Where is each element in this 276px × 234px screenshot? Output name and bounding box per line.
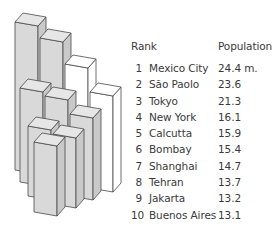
rank-number: 2 (131, 76, 142, 92)
rank-number: 9 (131, 190, 142, 206)
rank-number: 8 (131, 174, 142, 190)
header-rank: Rank (131, 38, 218, 60)
city-name: Jakarta (149, 190, 218, 206)
table-row: 8 Tehran 13.7 (131, 174, 276, 190)
population-value: 24.4 m. (218, 60, 258, 76)
rank-number: 10 (131, 207, 142, 223)
rank-number: 1 (131, 60, 142, 76)
table-row: 4 New York 16.1 (131, 109, 276, 125)
table-row: 9 Jakarta 13.2 (131, 190, 276, 206)
rank-number: 4 (131, 109, 142, 125)
population-value: 13.7 (218, 174, 241, 190)
table-row: 10 Buenos Aires 13.1 (131, 207, 276, 223)
table-row: 1 Mexico City 24.4 m. (131, 60, 276, 76)
population-value: 16.1 (218, 109, 241, 125)
header-population: Population (218, 38, 272, 60)
population-table: Rank Population 1 Mexico City 24.4 m. 2 … (131, 38, 276, 223)
population-value: 13.1 (218, 207, 241, 223)
population-value: 15.9 (218, 125, 241, 141)
city-name: Bombay (149, 141, 218, 157)
population-value: 14.7 (218, 158, 241, 174)
population-value: 15.4 (218, 141, 241, 157)
table-header: Rank Population (131, 38, 276, 60)
table-row: 2 São Paolo 23.6 (131, 76, 276, 92)
table-row: 6 Bombay 15.4 (131, 141, 276, 157)
city-name: New York (149, 109, 218, 125)
bar-buenos-aires (34, 133, 65, 216)
population-value: 21.3 (218, 93, 241, 109)
table-row: 7 Shanghai 14.7 (131, 158, 276, 174)
city-name: Mexico City (149, 60, 218, 76)
city-name: Shanghai (149, 158, 218, 174)
city-name: Tokyo (149, 93, 218, 109)
table-row: 3 Tokyo 21.3 (131, 93, 276, 109)
rank-number: 5 (131, 125, 142, 141)
rank-number: 6 (131, 141, 142, 157)
table-row: 5 Calcutta 15.9 (131, 125, 276, 141)
rank-number: 7 (131, 158, 142, 174)
population-value: 23.6 (218, 76, 241, 92)
city-name: Buenos Aires (149, 207, 218, 223)
city-name: São Paolo (149, 76, 218, 92)
3d-bar-chart (0, 0, 125, 234)
city-name: Calcutta (149, 125, 218, 141)
rank-number: 3 (131, 93, 142, 109)
city-name: Tehran (149, 174, 218, 190)
population-value: 13.2 (218, 190, 241, 206)
